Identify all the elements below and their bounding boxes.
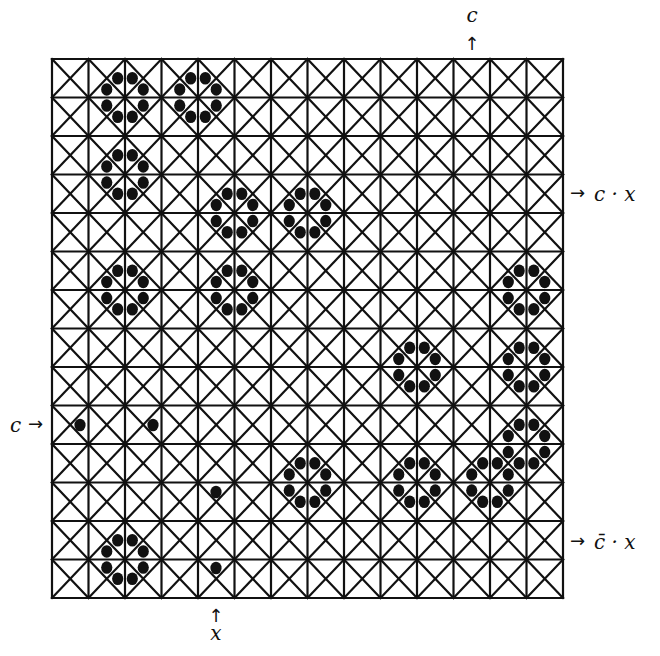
dot — [101, 176, 112, 189]
dot — [320, 215, 331, 228]
dot — [320, 199, 331, 212]
dot — [503, 276, 514, 289]
dot — [528, 418, 539, 431]
dot — [295, 457, 306, 470]
dot — [236, 264, 247, 277]
dot — [419, 495, 430, 508]
dot — [127, 264, 138, 277]
dot — [211, 215, 222, 228]
dot — [222, 226, 233, 239]
dot — [503, 369, 514, 382]
dot — [138, 561, 149, 574]
dot — [419, 341, 430, 354]
dot — [309, 457, 320, 470]
dot — [174, 99, 185, 112]
dot — [138, 276, 149, 289]
dot — [295, 226, 306, 239]
cellular-automaton-diagram: c ↑ ↑ x c → → c · x → c̄ · x — [0, 0, 660, 656]
dot — [419, 457, 430, 470]
dot — [101, 276, 112, 289]
dot — [200, 110, 211, 123]
dot — [503, 468, 514, 481]
dot — [503, 484, 514, 497]
dot — [211, 99, 222, 112]
dot — [539, 292, 550, 305]
dot — [466, 484, 477, 497]
dot — [247, 199, 258, 212]
label-right-notc-and-x: → c̄ · x — [570, 530, 636, 554]
dot — [430, 484, 441, 497]
dot — [528, 457, 539, 470]
label-left-c: c → — [10, 413, 43, 437]
dot — [503, 292, 514, 305]
dot — [503, 430, 514, 443]
label-right-c-and-x: → c · x — [570, 182, 636, 206]
dot — [393, 369, 404, 382]
dot — [101, 545, 112, 558]
dot — [127, 72, 138, 85]
dot — [138, 292, 149, 305]
single-dot — [147, 419, 158, 432]
label-top-text: c — [466, 3, 477, 27]
dot — [222, 187, 233, 200]
dot — [477, 457, 488, 470]
dot — [430, 468, 441, 481]
dot — [211, 83, 222, 96]
right-arrow-icon: → — [570, 530, 585, 551]
dot — [514, 303, 525, 316]
dot — [101, 292, 112, 305]
dot — [236, 226, 247, 239]
dot — [138, 160, 149, 173]
dot — [211, 292, 222, 305]
dot — [222, 303, 233, 316]
dot — [284, 484, 295, 497]
dot — [528, 264, 539, 277]
right-arrow-icon: → — [570, 182, 585, 203]
dot — [528, 380, 539, 393]
dot — [295, 187, 306, 200]
dot — [393, 484, 404, 497]
right-arrow-icon: → — [28, 413, 43, 434]
dot — [539, 446, 550, 459]
dot — [101, 561, 112, 574]
up-arrow-icon: ↑ — [464, 33, 479, 54]
dot — [309, 495, 320, 508]
dot — [101, 160, 112, 173]
dot — [138, 99, 149, 112]
dot — [309, 226, 320, 239]
dot — [247, 292, 258, 305]
dot — [138, 83, 149, 96]
dot — [477, 495, 488, 508]
dot — [514, 380, 525, 393]
dot — [112, 572, 123, 585]
dot — [127, 303, 138, 316]
dot — [138, 176, 149, 189]
dot — [222, 264, 233, 277]
dot — [309, 187, 320, 200]
label-right-lower-text: c̄ · x — [594, 530, 636, 554]
dot — [127, 572, 138, 585]
single-dot — [74, 419, 85, 432]
dot — [539, 353, 550, 366]
dot — [539, 430, 550, 443]
label-right-upper-text: c · x — [594, 182, 636, 206]
dot — [404, 495, 415, 508]
dot — [112, 264, 123, 277]
dot — [503, 446, 514, 459]
dot — [492, 495, 503, 508]
dot — [236, 303, 247, 316]
dot — [539, 369, 550, 382]
dot — [466, 468, 477, 481]
dot — [284, 468, 295, 481]
dot — [539, 276, 550, 289]
dot — [404, 380, 415, 393]
dot — [112, 110, 123, 123]
dot — [101, 83, 112, 96]
dot — [393, 353, 404, 366]
dot — [101, 99, 112, 112]
dot — [393, 468, 404, 481]
label-top-c: c ↑ — [464, 3, 479, 54]
dot — [320, 484, 331, 497]
grid-lines — [52, 59, 563, 598]
dot — [112, 534, 123, 547]
